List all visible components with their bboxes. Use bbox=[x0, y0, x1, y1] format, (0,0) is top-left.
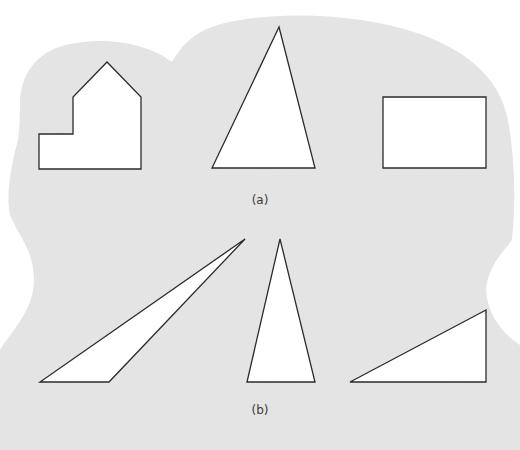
figure-canvas: (a) (b) bbox=[0, 0, 520, 450]
panel-b-label: (b) bbox=[252, 403, 269, 417]
panel-a-label: (a) bbox=[252, 193, 269, 207]
rectangle bbox=[383, 97, 486, 168]
